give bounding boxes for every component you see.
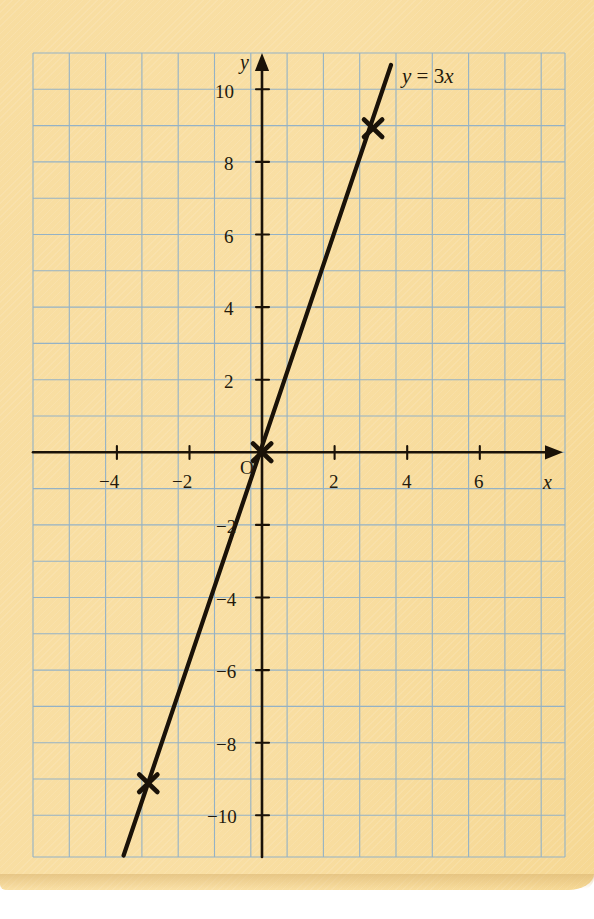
- y-tick-label-minus-6: −6: [216, 662, 236, 681]
- graph-canvas: [0, 0, 594, 890]
- origin-label: O: [240, 458, 254, 477]
- y-tick-label-2: 2: [224, 372, 234, 391]
- curve-equation-label: y = 3x: [402, 66, 454, 87]
- curve-equation-coefficient: 3: [434, 64, 445, 88]
- y-tick-label-minus-2: −2: [216, 517, 236, 536]
- y-axis-arrowhead: [255, 53, 269, 71]
- grid-lines: [33, 53, 565, 857]
- y-tick-label-6: 6: [224, 227, 234, 246]
- x-tick-label-minus-2: −2: [172, 472, 192, 491]
- x-tick-label-6: 6: [474, 472, 484, 491]
- curve-equation-operator: =: [417, 64, 429, 88]
- x-tick-label-4: 4: [402, 472, 412, 491]
- y-tick-label-minus-8: −8: [216, 735, 236, 754]
- x-tick-label-minus-4: −4: [99, 472, 119, 491]
- x-axis-label: x: [543, 472, 552, 492]
- curve-equation-lhs: y: [402, 64, 411, 88]
- y-axis-label: y: [240, 52, 249, 72]
- plot-line-y-equals-3x: [124, 65, 391, 856]
- x-axis-arrowhead: [545, 445, 563, 459]
- y-tick-label-minus-10: −10: [207, 807, 237, 826]
- y-tick-label-minus-4: −4: [216, 590, 236, 609]
- graph-figure: 10 8 6 4 2 −2 −4 −6 −8 −10 −4 −2 2 4 6 O…: [0, 0, 594, 890]
- curve-equation-variable: x: [444, 64, 453, 88]
- y-tick-label-10: 10: [215, 82, 234, 101]
- y-tick-label-8: 8: [224, 154, 234, 173]
- x-tick-label-2: 2: [329, 472, 339, 491]
- y-tick-label-4: 4: [224, 299, 234, 318]
